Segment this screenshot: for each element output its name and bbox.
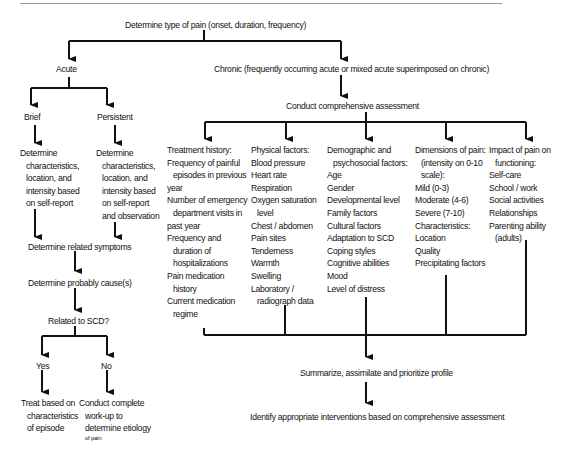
text-line: Severe (7-10) <box>415 207 486 220</box>
text-line: Family factors <box>327 207 408 220</box>
text-line: Pain sites <box>251 232 317 245</box>
text-line: Conduct complete <box>79 397 151 410</box>
text-line: Warmth <box>251 257 317 270</box>
text-line: intensity based <box>96 185 159 198</box>
text-line: episodes in previous <box>167 169 247 182</box>
text-line: radiograph data <box>251 295 317 308</box>
acute-node: Acute <box>56 63 77 76</box>
text-line: Location <box>415 232 486 245</box>
text-line: Characteristics: <box>415 220 486 233</box>
text-line: Mood <box>327 270 408 283</box>
text-line: Frequency and <box>167 232 247 245</box>
text-line: characteristics, <box>96 160 159 173</box>
text-line: Developmental level <box>327 194 408 207</box>
text-line: Dimensions of pain: <box>415 144 486 157</box>
no-action-node: Conduct complete work-up to determine et… <box>79 397 151 442</box>
text-line: Current medication <box>167 295 247 308</box>
text-line: work-up to <box>79 410 151 423</box>
probable-cause-node: Determine probably cause(s) <box>28 277 132 290</box>
related-symptoms-node: Determine related symptoms <box>28 241 131 254</box>
text-line: level <box>251 207 317 220</box>
text-line: determine etiology <box>79 422 151 435</box>
text-line: Mild (0-3) <box>415 182 486 195</box>
text-line: location, and <box>96 172 159 185</box>
text-line: Moderate (4-6) <box>415 194 486 207</box>
text-line: Frequency of painful <box>167 157 247 170</box>
text-line: Parenting ability <box>489 220 551 233</box>
persistent-step-node: Determine characteristics, location, and… <box>96 147 159 223</box>
text-line: hospitalizations <box>167 257 247 270</box>
text-line: on self-report <box>20 197 80 210</box>
text-line: functioning: <box>489 157 551 170</box>
physical-factors-node: Physical factors: Blood pressure Heart r… <box>251 144 317 308</box>
text-line: Impact of pain on <box>489 144 551 157</box>
text-line: Age <box>327 169 408 182</box>
text-line: Oxygen saturation <box>251 194 317 207</box>
text-line: duration of <box>167 245 247 258</box>
text-line: (adults) <box>489 232 551 245</box>
text-line: Cognitive abilities <box>327 257 408 270</box>
text-line: Physical factors: <box>251 144 317 157</box>
text-line: Relationships <box>489 207 551 220</box>
demographic-psychosocial-node: Demographic and psychosocial factors: Ag… <box>327 144 408 295</box>
text-line: Pain medication <box>167 270 247 283</box>
treatment-history-node: Treatment history: Frequency of painful … <box>167 144 247 320</box>
text-line: and observation <box>96 210 159 223</box>
comprehensive-assessment-node: Conduct comprehensive assessment <box>286 100 419 113</box>
interventions-node: Identify appropriate interventions based… <box>250 411 504 424</box>
text-line: Swelling <box>251 270 317 283</box>
yes-node: Yes <box>36 360 49 373</box>
text-line: Determine <box>20 147 80 160</box>
text-line: Coping styles <box>327 245 408 258</box>
text-line: psychosocial factors: <box>327 157 408 170</box>
text-line: of episode <box>21 422 78 435</box>
text-line: characteristics <box>21 410 78 423</box>
text-line: Level of distress <box>327 283 408 296</box>
text-line: Demographic and <box>327 144 408 157</box>
persistent-node: Persistent <box>97 111 133 124</box>
text-line: Adaptation to SCD <box>327 232 408 245</box>
text-line: Precipitating factors <box>415 257 486 270</box>
text-line: Laboratory / <box>251 283 317 296</box>
text-line: history <box>167 283 247 296</box>
text-line: intensity based <box>20 185 80 198</box>
related-to-scd-node: Related to SCD? <box>48 315 109 328</box>
text-line: on self-report <box>96 197 159 210</box>
text-line: Chest / abdomen <box>251 220 317 233</box>
no-node: No <box>101 360 112 373</box>
text-line: Heart rate <box>251 169 317 182</box>
text-line: Respiration <box>251 182 317 195</box>
impact-on-functioning-node: Impact of pain on functioning: Self-care… <box>489 144 551 245</box>
text-line: Quality <box>415 245 486 258</box>
text-line: Determine <box>96 147 159 160</box>
text-line: Blood pressure <box>251 157 317 170</box>
chronic-node: Chronic (frequently occurring acute or m… <box>214 63 489 76</box>
text-line: year <box>167 182 247 195</box>
text-line: characteristics, <box>20 160 80 173</box>
text-line: Self-care <box>489 169 551 182</box>
text-line: department visits in <box>167 207 247 220</box>
root-node: Determine type of pain (onset, duration,… <box>125 19 306 32</box>
text-line: Number of emergency <box>167 194 247 207</box>
text-line: Cultural factors <box>327 220 408 233</box>
text-line: Tenderness <box>251 245 317 258</box>
text-line: past year <box>167 220 247 233</box>
brief-step-node: Determine characteristics, location, and… <box>20 147 80 210</box>
text-line: Gender <box>327 182 408 195</box>
yes-action-node: Treat based on characteristics of episod… <box>21 397 78 435</box>
summarize-node: Summarize, assimilate and prioritize pro… <box>300 367 453 380</box>
text-line: scale): <box>415 169 486 182</box>
text-line: Treat based on <box>21 397 78 410</box>
dimensions-of-pain-node: Dimensions of pain: (intensity on 0-10 s… <box>415 144 486 270</box>
text-line: regime <box>167 308 247 321</box>
text-line: Treatment history: <box>167 144 247 157</box>
text-line: of pain <box>79 435 151 442</box>
brief-node: Brief <box>24 111 40 124</box>
text-line: location, and <box>20 172 80 185</box>
text-line: School / work <box>489 182 551 195</box>
text-line: (intensity on 0-10 <box>415 157 486 170</box>
text-line: Social activities <box>489 194 551 207</box>
